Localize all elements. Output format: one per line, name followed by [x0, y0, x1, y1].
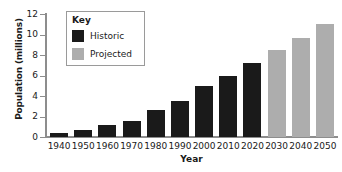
legend-title: Key [72, 15, 140, 26]
population-bar-chart: Population (millions) 024681012 19401950… [0, 0, 342, 172]
bar-1970 [123, 121, 141, 137]
bar-2030 [268, 50, 286, 137]
y-tick-label-wrap: 0 [20, 133, 38, 142]
bar-1990 [171, 101, 189, 137]
x-tick-label-2030: 2030 [265, 141, 289, 151]
bar-2010 [219, 76, 237, 138]
bar-2020 [243, 63, 261, 137]
legend-swatch-historic-icon [72, 30, 84, 42]
y-tick-label: 2 [20, 112, 38, 121]
x-tick-label-1980: 1980 [144, 141, 168, 151]
legend-swatch-projected-icon [72, 48, 84, 60]
y-tick-label: 4 [20, 92, 38, 101]
bar-2040 [292, 38, 310, 137]
bar-1960 [98, 125, 116, 137]
y-tick-label-wrap: 2 [20, 112, 38, 121]
x-tick-label-2040: 2040 [289, 141, 313, 151]
legend-label-historic: Historic [90, 31, 124, 41]
bar-2050 [316, 24, 334, 137]
y-tick [40, 76, 46, 77]
legend-label-projected: Projected [90, 49, 132, 59]
x-tick-label-1970: 1970 [120, 141, 144, 151]
y-tick-label: 8 [20, 51, 38, 60]
x-tick-label-2020: 2020 [240, 141, 264, 151]
y-tick-label: 0 [20, 133, 38, 142]
y-tick-label: 6 [20, 71, 38, 80]
y-tick [40, 14, 46, 15]
chart-legend: Key Historic Projected [66, 11, 145, 66]
y-tick-label-wrap: 10 [20, 30, 38, 39]
y-tick-label: 12 [20, 10, 38, 19]
legend-item-historic: Historic [72, 27, 140, 45]
x-tick-label-1990: 1990 [168, 141, 192, 151]
x-tick-label-2050: 2050 [313, 141, 337, 151]
y-tick-label-wrap: 4 [20, 92, 38, 101]
y-tick [40, 96, 46, 97]
y-tick-label-wrap: 12 [20, 10, 38, 19]
bar-2000 [195, 86, 213, 137]
bar-1980 [147, 110, 165, 137]
x-tick-label-1950: 1950 [71, 141, 95, 151]
x-axis-title: Year [46, 154, 337, 164]
y-tick-label-wrap: 6 [20, 71, 38, 80]
y-tick [40, 35, 46, 36]
bar-1950 [74, 130, 92, 137]
y-tick [40, 117, 46, 118]
y-tick-label: 10 [20, 30, 38, 39]
legend-item-projected: Projected [72, 45, 140, 63]
y-tick [40, 137, 46, 138]
y-tick-label-wrap: 8 [20, 51, 38, 60]
x-tick-label-1960: 1960 [95, 141, 119, 151]
bar-1940 [50, 133, 68, 137]
x-tick-label-2010: 2010 [216, 141, 240, 151]
x-tick-label-1940: 1940 [47, 141, 71, 151]
x-tick-label-2000: 2000 [192, 141, 216, 151]
y-tick [40, 55, 46, 56]
